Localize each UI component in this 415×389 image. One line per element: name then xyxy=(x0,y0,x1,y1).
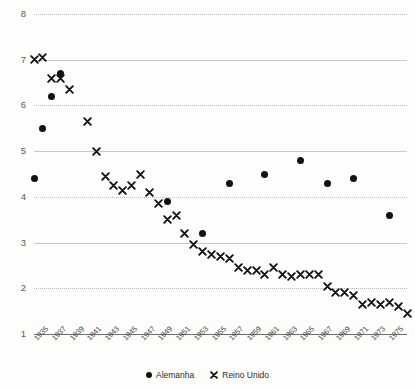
data-point-reino-unido xyxy=(30,55,39,64)
y-tick-label: 4 xyxy=(0,192,26,202)
y-axis-labels: 12345678 xyxy=(0,14,30,334)
data-point-reino-unido xyxy=(172,211,181,220)
legend-circle-icon xyxy=(146,372,152,378)
data-point-reino-unido xyxy=(260,270,269,279)
y-tick-label: 6 xyxy=(0,100,26,110)
data-point-reino-unido xyxy=(376,300,385,309)
data-point-alemanha xyxy=(261,171,268,178)
data-point-reino-unido xyxy=(163,215,172,224)
data-point-alemanha xyxy=(297,157,304,164)
data-point-reino-unido xyxy=(83,117,92,126)
data-point-reino-unido xyxy=(394,302,403,311)
data-point-reino-unido xyxy=(109,181,118,190)
data-point-alemanha xyxy=(31,175,38,182)
y-tick-label: 2 xyxy=(0,283,26,293)
y-tick-label: 1 xyxy=(0,329,26,339)
data-point-reino-unido xyxy=(349,291,358,300)
data-point-reino-unido xyxy=(145,188,154,197)
data-point-reino-unido xyxy=(358,300,367,309)
gridline-4 xyxy=(34,197,407,198)
data-point-reino-unido xyxy=(367,298,376,307)
legend-label: Reino Unido xyxy=(222,370,269,380)
data-point-reino-unido xyxy=(65,85,74,94)
data-point-alemanha xyxy=(324,180,331,187)
data-point-reino-unido xyxy=(323,282,332,291)
data-point-reino-unido xyxy=(287,272,296,281)
data-point-reino-unido xyxy=(92,147,101,156)
data-point-reino-unido xyxy=(243,266,252,275)
data-point-reino-unido xyxy=(340,288,349,297)
legend-label: Alemanha xyxy=(156,370,194,380)
data-point-reino-unido xyxy=(38,53,47,62)
data-point-reino-unido xyxy=(56,74,65,83)
data-point-reino-unido xyxy=(225,254,234,263)
data-point-alemanha xyxy=(386,212,393,219)
data-point-reino-unido xyxy=(189,240,198,249)
y-tick-label: 8 xyxy=(0,9,26,19)
legend-x-icon xyxy=(210,371,218,379)
gridline-8 xyxy=(34,14,407,15)
data-point-reino-unido xyxy=(403,309,412,318)
data-point-reino-unido xyxy=(180,229,189,238)
data-point-reino-unido xyxy=(314,270,323,279)
data-point-reino-unido xyxy=(269,263,278,272)
data-point-reino-unido xyxy=(234,263,243,272)
data-point-reino-unido xyxy=(154,199,163,208)
y-tick-label: 3 xyxy=(0,238,26,248)
gridline-3 xyxy=(34,243,407,244)
data-point-reino-unido xyxy=(198,247,207,256)
data-point-reino-unido xyxy=(385,298,394,307)
data-point-reino-unido xyxy=(101,172,110,181)
data-point-alemanha xyxy=(350,175,357,182)
data-point-reino-unido xyxy=(118,186,127,195)
data-point-alemanha xyxy=(164,198,171,205)
data-point-alemanha xyxy=(226,180,233,187)
data-point-reino-unido xyxy=(47,74,56,83)
chart-legend: AlemanhaReino Unido xyxy=(0,370,415,380)
y-tick-label: 7 xyxy=(0,55,26,65)
gridline-7 xyxy=(34,60,407,61)
data-point-alemanha xyxy=(48,93,55,100)
data-point-reino-unido xyxy=(127,181,136,190)
legend-item-alemanha[interactable]: Alemanha xyxy=(146,370,194,380)
data-point-alemanha xyxy=(199,230,206,237)
plot-area xyxy=(34,14,407,334)
data-point-reino-unido xyxy=(278,270,287,279)
y-tick-label: 5 xyxy=(0,146,26,156)
data-point-reino-unido xyxy=(136,170,145,179)
data-point-reino-unido xyxy=(296,270,305,279)
gridline-2 xyxy=(34,288,407,289)
data-point-reino-unido xyxy=(216,252,225,261)
gridline-5 xyxy=(34,151,407,152)
data-point-reino-unido xyxy=(252,266,261,275)
scatter-chart: 12345678 1935193719391941194319451947194… xyxy=(0,0,415,389)
data-point-alemanha xyxy=(39,125,46,132)
data-point-reino-unido xyxy=(331,288,340,297)
data-point-reino-unido xyxy=(207,250,216,259)
data-point-reino-unido xyxy=(305,270,314,279)
legend-item-reino-unido[interactable]: Reino Unido xyxy=(210,370,269,380)
gridline-6 xyxy=(34,105,407,106)
